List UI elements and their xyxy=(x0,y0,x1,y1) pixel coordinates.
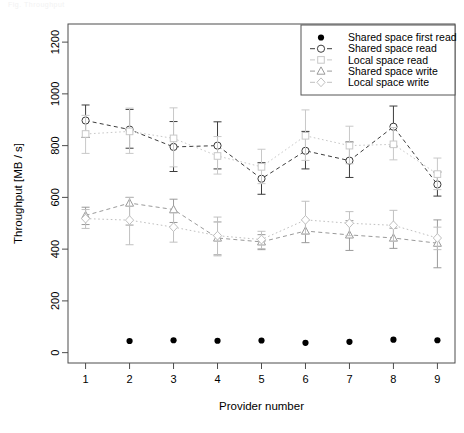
x-tick-label: 9 xyxy=(434,373,440,385)
data-point xyxy=(82,131,89,138)
data-point xyxy=(170,135,177,142)
y-axis-label: Throughput [MB / s] xyxy=(12,143,24,244)
legend-marker-filled-circle xyxy=(318,34,324,40)
data-point xyxy=(214,153,221,160)
legend-label: Shared space write xyxy=(348,65,438,77)
y-tick-label: 600 xyxy=(49,188,61,206)
data-point xyxy=(390,337,396,343)
y-tick-label: 1000 xyxy=(49,82,61,106)
x-tick-label: 7 xyxy=(346,373,352,385)
data-point xyxy=(434,337,440,343)
x-axis-label: Provider number xyxy=(219,400,304,412)
x-tick-label: 3 xyxy=(170,373,176,385)
y-tick-label: 1200 xyxy=(49,30,61,54)
legend-marker-open-circle xyxy=(317,45,324,52)
legend-marker-open-square xyxy=(318,57,325,64)
page-header-ghost: Fig. Throughput xyxy=(8,1,65,8)
data-point xyxy=(170,337,176,343)
figure-root: Fig. Throughput 020040060080010001200123… xyxy=(0,0,464,433)
data-point xyxy=(346,142,353,149)
data-point xyxy=(346,339,352,345)
y-tick-label: 800 xyxy=(49,136,61,154)
legend[interactable]: Shared space first readShared space read… xyxy=(301,25,457,95)
data-point xyxy=(214,338,220,344)
data-point xyxy=(390,141,397,148)
data-point xyxy=(258,164,265,171)
y-tick-label: 400 xyxy=(49,240,61,258)
legend-label: Shared space first read xyxy=(348,31,457,43)
data-point xyxy=(302,132,309,139)
data-point xyxy=(258,337,264,343)
x-tick-label: 1 xyxy=(83,373,89,385)
x-tick-label: 6 xyxy=(302,373,308,385)
legend-label: Shared space read xyxy=(348,42,437,54)
x-tick-label: 5 xyxy=(258,373,264,385)
data-point xyxy=(434,171,441,178)
y-tick-label: 200 xyxy=(49,292,61,310)
legend-label: Local space write xyxy=(348,76,429,88)
throughput-chart: 020040060080010001200123456789 Provider … xyxy=(0,0,464,433)
data-point xyxy=(126,338,132,344)
data-point xyxy=(126,128,133,135)
x-tick-label: 2 xyxy=(127,373,133,385)
x-tick-label: 8 xyxy=(390,373,396,385)
legend-label: Local space read xyxy=(348,54,428,66)
x-tick-label: 4 xyxy=(214,373,220,385)
y-tick-label: 0 xyxy=(49,350,61,356)
data-point xyxy=(302,340,308,346)
